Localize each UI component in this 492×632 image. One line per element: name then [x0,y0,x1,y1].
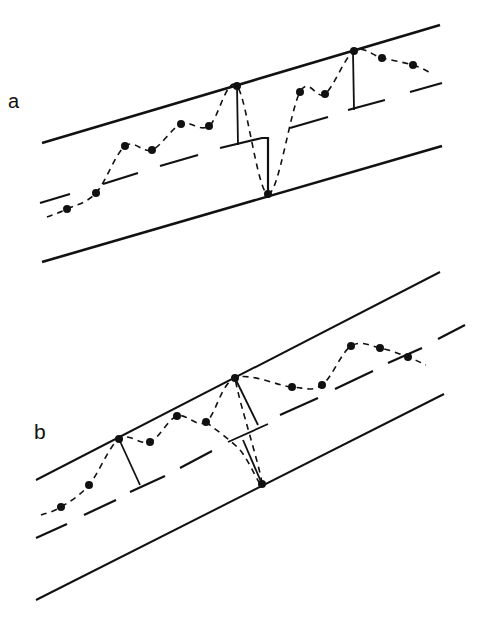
data-point [63,205,71,213]
centerline-dash [160,155,198,166]
data-point [173,412,181,420]
data-point [378,54,386,62]
step-offset-a [220,138,268,193]
data-points-a [63,47,417,213]
data-point [148,146,156,154]
centerline-dash [84,500,116,515]
panel-b [36,272,465,600]
lower-boundary-b [36,394,444,600]
centerline-dash [130,476,165,492]
verticals-a [237,52,354,145]
data-points-b [57,342,412,511]
data-point [85,481,93,489]
data-point [92,189,100,197]
data-point [205,122,213,130]
data-point [57,503,65,511]
figure: a b [0,0,492,632]
panel-a [40,25,442,262]
data-point [177,120,185,128]
data-point [288,383,296,391]
data-point [321,90,329,98]
data-point [347,342,355,350]
data-point [146,438,154,446]
data-point [376,344,384,352]
diagram-canvas [0,0,492,632]
centerline-dash [180,451,212,468]
offset-vertical [353,52,354,110]
centerline-dash [36,524,67,538]
centerline-dash [438,325,465,339]
data-point [233,82,241,90]
data-point [350,47,358,55]
data-point [264,190,272,198]
offset-vertical [235,378,258,425]
data-point [318,381,326,389]
data-point [296,88,304,96]
data-point [121,142,129,150]
data-curve-a [47,49,431,217]
data-point [404,353,412,361]
centerline-dash [290,117,328,128]
centerline-dash [335,371,373,389]
offset-vertical [237,86,238,145]
verticals-b [119,378,262,485]
upper-boundary-a [42,25,440,143]
data-point [115,435,123,443]
data-point [409,61,417,69]
centerline-dash [410,83,442,92]
data-point [258,480,266,488]
panel-label-a: a [8,90,19,113]
data-point [231,374,239,382]
lower-boundary-a [42,146,442,262]
data-curve-b-secondary [206,378,262,485]
centerline-dash [40,194,70,203]
panel-label-b: b [34,420,46,444]
data-curve-b [41,343,426,515]
data-point [202,418,210,426]
centerline-dash [280,398,318,415]
offset-vertical [119,439,140,485]
